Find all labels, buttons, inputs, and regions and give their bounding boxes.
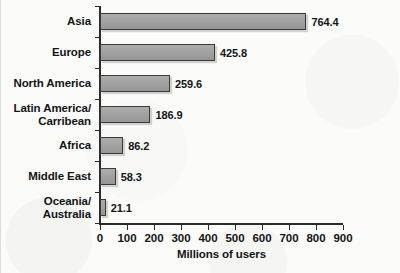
x-axis-tick [100,225,101,230]
category-label-line1: Europe [52,46,91,59]
category-label-line2: Carribean [38,115,91,128]
x-axis-tick-label: 400 [198,232,217,244]
bar-row: 425.8 [100,37,343,68]
x-axis-tick-label: 500 [225,232,244,244]
bar-with-label: 58.3 [100,168,142,185]
bar-value-label: 764.4 [311,16,338,28]
bar[interactable] [100,106,150,123]
bar-value-label: 186.9 [155,109,182,121]
x-axis-tick-label: 300 [171,232,190,244]
category-label-line1: Oceania/ [44,195,91,208]
bar-with-label: 186.9 [100,106,182,123]
x-axis-tick-label: 100 [117,232,136,244]
x-axis-tick-label: 0 [97,232,103,244]
bar[interactable] [100,199,106,216]
bar-with-label: 764.4 [100,13,338,30]
category-label-africa: Africa [0,130,91,161]
bar[interactable] [100,137,123,154]
category-label-asia: Asia [0,6,91,37]
category-label-north-america: North America [0,68,91,99]
category-label-line2: Australia [43,208,91,221]
x-axis-tick [343,225,344,230]
x-axis-tick [154,225,155,230]
bar-with-label: 425.8 [100,44,247,61]
category-label-line1: Middle East [28,170,91,183]
x-axis-tick-label: 700 [279,232,298,244]
bar-row: 58.3 [100,161,343,192]
bar-row: 186.9 [100,99,343,130]
x-axis-tick [127,225,128,230]
bar-with-label: 86.2 [100,137,149,154]
bar-value-label: 21.1 [111,202,132,214]
x-axis-line [99,223,343,225]
bar-value-label: 425.8 [220,47,247,59]
x-axis-tick-label: 800 [306,232,325,244]
plot-area: 764.4425.8259.6186.986.258.321.1 0 100 2… [100,6,343,223]
category-label-line1: Latin America/ [14,102,91,115]
x-axis-tick-label: 200 [144,232,163,244]
x-axis-tick [289,225,290,230]
bar-with-label: 21.1 [100,199,132,216]
bar-row: 764.4 [100,6,343,37]
bar-with-label: 259.6 [100,75,202,92]
category-label-line1: Asia [67,15,91,28]
x-axis-title: Millions of users [100,248,343,260]
bar-series: 764.4425.8259.6186.986.258.321.1 [100,6,343,223]
category-label-line1: North America [13,77,91,90]
category-label-line1: Africa [59,139,91,152]
category-label-oceania-australia: Oceania/ Australia [0,192,91,223]
category-label-europe: Europe [0,37,91,68]
bar[interactable] [100,44,215,61]
x-axis-tick [235,225,236,230]
x-axis-tick [208,225,209,230]
bar-chart-figure: Asia Europe North America Latin America/… [0,0,400,273]
bar-value-label: 58.3 [121,171,142,183]
x-axis-tick-label: 900 [333,232,352,244]
x-axis-tick [262,225,263,230]
x-axis-tick-label: 600 [252,232,271,244]
category-axis-labels: Asia Europe North America Latin America/… [1,6,96,223]
bar-row: 86.2 [100,130,343,161]
x-axis-tick [181,225,182,230]
y-axis-tick [95,223,100,224]
bar-value-label: 86.2 [128,140,149,152]
bar[interactable] [100,75,170,92]
bar-row: 259.6 [100,68,343,99]
bar[interactable] [100,13,306,30]
category-label-middle-east: Middle East [0,161,91,192]
category-label-latin-america-carribean: Latin America/ Carribean [0,99,91,130]
bar-value-label: 259.6 [175,78,202,90]
x-axis-tick [316,225,317,230]
bar[interactable] [100,168,116,185]
bar-row: 21.1 [100,192,343,223]
